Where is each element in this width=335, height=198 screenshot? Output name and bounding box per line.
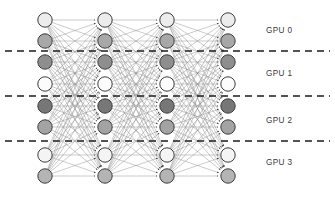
network-edge <box>109 92 162 170</box>
network-edge <box>170 27 224 147</box>
figure-container: GPU 0GPU 1GPU 2GPU 3 <box>0 0 335 198</box>
network-node-l2-n4 <box>160 99 174 113</box>
network-node-l1-n6 <box>98 148 112 162</box>
network-node-l0-n5 <box>38 120 52 134</box>
network-node-l3-n0 <box>221 13 235 27</box>
network-edge <box>109 47 161 119</box>
network-node-l0-n2 <box>38 55 52 69</box>
network-edge <box>110 27 160 79</box>
network-node-l3-n2 <box>221 55 235 69</box>
network-edge <box>171 92 223 170</box>
network-edge <box>112 22 158 38</box>
network-node-l0-n7 <box>38 169 52 183</box>
network-edge <box>48 27 101 146</box>
network-node-l3-n4 <box>221 99 235 113</box>
network-node-l3-n6 <box>221 148 235 162</box>
network-node-l2-n2 <box>160 55 174 69</box>
network-edge <box>49 92 100 170</box>
network-node-l3-n3 <box>221 77 235 91</box>
network-edge <box>111 131 160 169</box>
network-edge <box>50 27 98 79</box>
network-node-l2-n5 <box>160 120 174 134</box>
network-node-l1-n1 <box>98 34 112 48</box>
network-node-l3-n5 <box>221 120 235 134</box>
gpu-label-0: GPU 0 <box>266 26 292 35</box>
network-node-l2-n0 <box>160 13 174 27</box>
network-edge <box>109 26 162 118</box>
network-node-l1-n4 <box>98 99 112 113</box>
network-edge <box>52 22 96 37</box>
network-edge <box>172 27 221 79</box>
network-edge <box>52 44 96 59</box>
network-node-l0-n6 <box>38 148 52 162</box>
network-node-l0-n1 <box>38 34 52 48</box>
network-edge <box>110 113 161 170</box>
network-edge <box>174 22 219 37</box>
neural-network-diagram: GPU 0GPU 1GPU 2GPU 3 <box>0 0 335 198</box>
network-edge <box>173 132 221 170</box>
network-edge <box>174 44 219 59</box>
gpu-label-2: GPU 2 <box>266 116 292 125</box>
network-edge <box>49 26 101 118</box>
network-node-l3-n1 <box>221 34 235 48</box>
network-node-l0-n4 <box>38 99 52 113</box>
gpu-label-1: GPU 1 <box>266 69 292 78</box>
network-node-l0-n0 <box>38 13 52 27</box>
network-node-l1-n5 <box>98 120 112 134</box>
network-node-l2-n1 <box>160 34 174 48</box>
network-node-l1-n0 <box>98 13 112 27</box>
network-edge <box>112 44 158 60</box>
edges-group <box>48 20 225 176</box>
network-node-l2-n3 <box>160 77 174 91</box>
network-node-l1-n3 <box>98 77 112 91</box>
network-node-l2-n7 <box>160 169 174 183</box>
network-edge <box>50 113 99 170</box>
network-edge <box>172 113 222 170</box>
network-edge <box>108 27 163 147</box>
network-node-l3-n7 <box>221 169 235 183</box>
network-node-l0-n3 <box>38 77 52 91</box>
network-node-l1-n2 <box>98 55 112 69</box>
gpu-label-3: GPU 3 <box>266 158 292 167</box>
network-node-l1-n7 <box>98 169 112 183</box>
network-edge <box>51 132 98 170</box>
network-edge <box>171 26 224 118</box>
network-edge <box>108 29 164 169</box>
network-node-l2-n6 <box>160 148 174 162</box>
